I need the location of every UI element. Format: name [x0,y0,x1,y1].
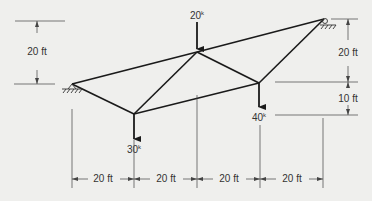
member-bottom-right [259,19,324,83]
svg-text:20k: 20k [190,10,205,21]
truss-members [72,19,324,114]
dimension-label: 20 ft [282,173,302,184]
member-diagonal-left [134,52,197,114]
load-value: 20 [190,10,202,21]
load-unit: k [201,10,205,16]
load-unit: k [263,112,267,118]
member-top-chord-left [72,52,197,84]
support-right [320,19,336,30]
dimension-label: 20 ft [156,173,176,184]
load-20k: 20k [190,10,205,49]
svg-text:30k: 30k [127,144,142,155]
truss-diagram: 20k 30k 40k 20 ft 20 ft 10 ft [0,0,372,201]
svg-text:40k: 40k [252,112,267,123]
member-bottom-left [72,84,134,114]
load-unit: k [138,144,142,150]
dimension-label: 20 ft [27,46,47,57]
load-value: 30 [127,144,139,155]
dimension-label: 20 ft [219,173,239,184]
dimension-label: 20 ft [338,47,358,58]
dimension-label: 20 ft [93,173,113,184]
load-30k: 30k [127,114,142,155]
load-value: 40 [252,112,264,123]
dimension-label: 10 ft [338,93,358,104]
member-bottom-middle [134,83,259,114]
member-top-chord-right [197,19,324,52]
load-40k: 40k [252,83,267,123]
truss-svg: 20k 30k 40k 20 ft 20 ft 10 ft [0,0,372,201]
member-diagonal-right [197,52,259,83]
support-left [62,84,82,93]
